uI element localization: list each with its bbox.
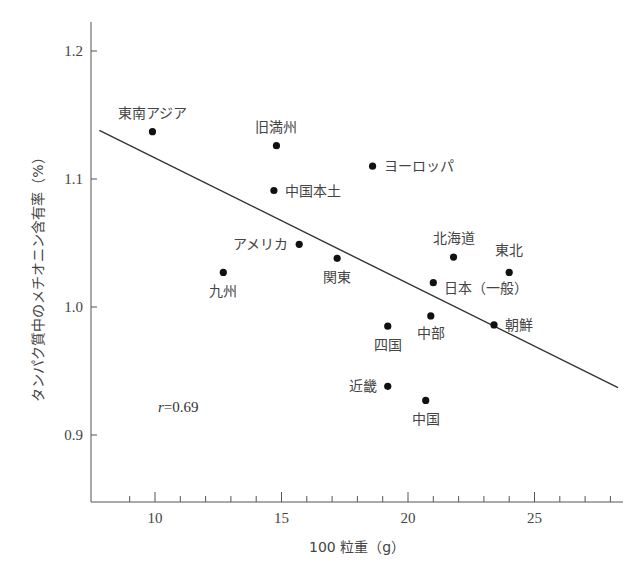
point-label: 四国: [374, 337, 402, 353]
data-point: [220, 269, 227, 276]
point-label: 関東: [323, 269, 351, 285]
point-label: 九州: [209, 283, 237, 299]
data-point: [270, 187, 277, 194]
data-point: [422, 397, 429, 404]
data-point: [334, 255, 341, 262]
x-tick-label: 20: [401, 510, 416, 526]
data-point: [296, 241, 303, 248]
data-point: [506, 269, 513, 276]
y-tick-label: 1.0: [64, 299, 83, 315]
correlation-annotation: r=0.69: [158, 399, 199, 415]
point-label: ヨーロッパ: [384, 158, 454, 174]
point-label: 朝鮮: [505, 317, 533, 333]
y-tick-label: 1.2: [64, 43, 83, 59]
regression-line: [99, 130, 618, 387]
point-label: 東南アジア: [118, 105, 187, 121]
data-point: [369, 163, 376, 170]
data-point: [273, 142, 280, 149]
y-axis-title: タンパク質中のメチオニン含有率（%）: [30, 150, 46, 401]
point-label: 東北: [495, 242, 523, 258]
data-point: [384, 383, 391, 390]
y-tick-label: 1.1: [64, 171, 83, 187]
data-point: [384, 323, 391, 330]
point-label: 中国: [412, 411, 440, 427]
point-label: 中国本土: [285, 183, 341, 199]
y-tick-label: 0.9: [64, 427, 83, 443]
data-point: [430, 279, 437, 286]
data-point: [450, 253, 457, 260]
scatter-chart: 0.91.01.11.210152025 東南アジア旧満州中国本土ヨーロッパアメ…: [0, 0, 637, 570]
x-tick-label: 10: [148, 510, 163, 526]
x-tick-label: 25: [527, 510, 542, 526]
regression-line-path: [99, 130, 618, 387]
data-point: [427, 312, 434, 319]
point-label: 日本（一般）: [444, 280, 528, 296]
x-tick-label: 15: [274, 510, 289, 526]
x-axis-title: 100 粒重（g）: [309, 539, 405, 555]
point-label: 中部: [417, 325, 445, 341]
point-label: 近畿: [349, 378, 377, 394]
data-point: [149, 128, 156, 135]
data-points: 東南アジア旧満州中国本土ヨーロッパアメリカ関東九州北海道東北日本（一般）中部四国…: [118, 105, 533, 428]
point-label: アメリカ: [233, 236, 288, 252]
point-label: 旧満州: [255, 119, 297, 135]
data-point: [490, 321, 497, 328]
point-label: 北海道: [433, 230, 475, 246]
